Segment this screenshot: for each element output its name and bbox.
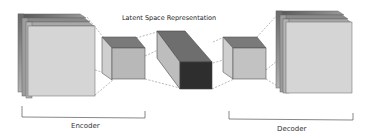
encoder-input-block (18, 14, 95, 98)
decoder-bracket (229, 111, 353, 120)
encoder-label: Encoder (71, 122, 100, 130)
decoder-label: Decoder (277, 125, 306, 133)
latent-space-title: Latent Space Representation (122, 14, 216, 22)
latent-block (157, 31, 212, 89)
encoder-bracket (22, 106, 145, 118)
decoder-hidden-cube (223, 37, 266, 79)
encoder-hidden-cube (102, 37, 145, 80)
decoder-output-block (276, 11, 352, 93)
